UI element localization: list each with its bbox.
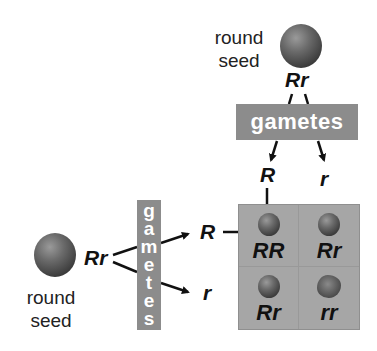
wrinkled-seed-icon xyxy=(317,275,341,298)
round-seed-icon xyxy=(280,24,322,68)
round-seed-icon xyxy=(258,275,280,298)
top-parent-label-line2: seed xyxy=(206,49,272,72)
round-seed-icon xyxy=(258,213,280,236)
top-gamete-allele-r: r xyxy=(320,167,328,191)
left-parent-label-line2: seed xyxy=(18,309,84,332)
cell-genotype: RR xyxy=(253,238,285,264)
left-gametes-box: g a m e t e s xyxy=(137,200,161,330)
left-parent-label: round seed xyxy=(18,286,84,332)
punnett-cell-Rr-bottom: Rr xyxy=(239,267,299,329)
round-seed-icon xyxy=(34,233,76,277)
left-parent-genotype: Rr xyxy=(84,246,107,270)
left-parent-label-line1: round xyxy=(18,286,84,309)
punnett-square: RR Rr Rr rr xyxy=(238,204,360,330)
cell-genotype: rr xyxy=(320,300,337,326)
punnett-cell-rr: rr xyxy=(299,267,359,329)
cell-genotype: Rr xyxy=(256,300,280,326)
gametes-letter: s xyxy=(144,310,155,328)
top-parent-genotype: Rr xyxy=(285,68,308,92)
cell-genotype: Rr xyxy=(317,238,341,264)
left-gamete-allele-r: r xyxy=(203,281,211,305)
top-gametes-box: gametes xyxy=(236,104,358,140)
top-gamete-allele-R: R xyxy=(260,163,275,187)
left-gamete-allele-R: R xyxy=(200,220,215,244)
top-parent-label: round seed xyxy=(206,26,272,72)
round-seed-icon xyxy=(318,213,340,236)
top-parent-label-line1: round xyxy=(206,26,272,49)
punnett-cell-RR: RR xyxy=(239,205,299,267)
punnett-cell-Rr-top: Rr xyxy=(299,205,359,267)
